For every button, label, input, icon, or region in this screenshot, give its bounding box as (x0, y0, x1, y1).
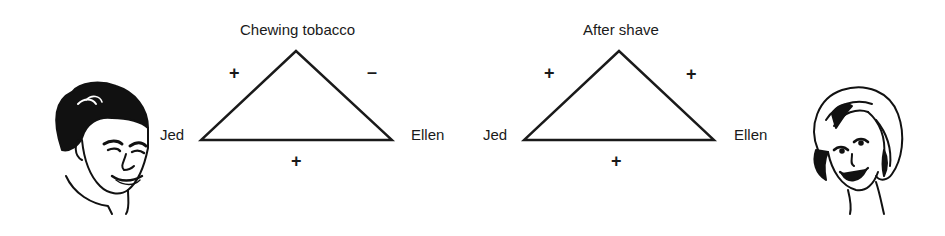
relation-sign-jed-ellen-2: + (611, 152, 622, 170)
relation-sign-jed-ellen-1: + (291, 152, 302, 170)
person-label-jed-1: Jed (160, 127, 184, 142)
person-label-ellen-2: Ellen (734, 127, 767, 142)
relation-sign-ellen-object-1: – (367, 63, 377, 81)
object-label-after-shave: After shave (583, 22, 659, 37)
relation-sign-jed-object-2: + (544, 64, 555, 82)
person-label-ellen-1: Ellen (411, 127, 444, 142)
relation-sign-ellen-object-2: + (686, 65, 697, 83)
man-face-icon (56, 83, 148, 214)
relation-sign-jed-object-1: + (229, 64, 240, 82)
diagram-canvas (0, 0, 945, 236)
woman-face-icon (814, 87, 902, 214)
person-label-jed-2: Jed (483, 127, 507, 142)
object-label-chewing-tobacco: Chewing tobacco (240, 22, 355, 37)
